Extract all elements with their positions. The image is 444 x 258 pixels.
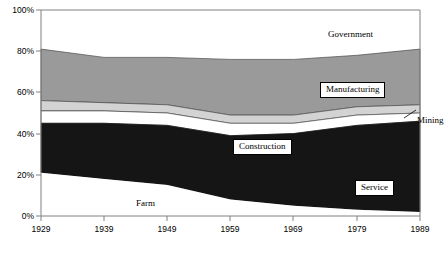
y-tick-label-80: 80%: [0, 46, 34, 56]
y-tick-label-100: 100%: [0, 5, 34, 15]
y-tick-label-40: 40%: [0, 129, 34, 139]
x-tick-label-1969: 1969: [273, 224, 313, 234]
y-tick-label-0: 0%: [0, 211, 34, 221]
series-label-mining: Mining: [417, 115, 444, 125]
x-tick-label-1949: 1949: [147, 224, 187, 234]
y-tick-label-20: 20%: [0, 170, 34, 180]
x-tick-label-1939: 1939: [84, 224, 124, 234]
x-tick-label-1929: 1929: [21, 224, 61, 234]
series-label-government: Government: [328, 29, 373, 39]
series-label-construction: Construction: [233, 139, 292, 155]
x-tick-label-1979: 1979: [337, 224, 377, 234]
y-tick-label-60: 60%: [0, 87, 34, 97]
x-tick-label-1989: 1989: [400, 224, 440, 234]
series-label-farm: Farm: [136, 198, 155, 208]
series-label-service: Service: [355, 180, 394, 196]
x-tick-label-1959: 1959: [210, 224, 250, 234]
y-axis-ticks: [36, 10, 41, 216]
x-axis-ticks: [41, 216, 420, 221]
series-label-manufacturing: Manufacturing: [320, 82, 385, 98]
